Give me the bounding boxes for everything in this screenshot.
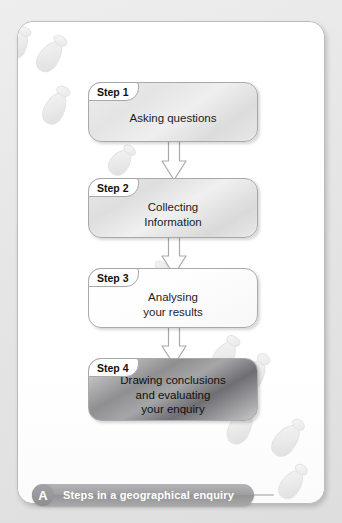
step-tab-label-1: Step 1 [88,82,139,101]
step-body-text-4: Drawing conclusions and evaluating your … [101,373,245,417]
step-tab-label-2: Step 2 [88,178,139,197]
step-tab-label-3: Step 3 [88,268,139,287]
footprint-icon [17,29,31,60]
footprint-icon [268,419,305,458]
footprint-icon [33,36,67,73]
flow-node-step-3[interactable]: Step 3 Analysing your results [88,268,258,328]
flow-node-step-1[interactable]: Step 1 Asking questions [88,82,258,142]
step-body-text-1: Asking questions [101,111,245,126]
footprint-icon [275,466,307,501]
caption-text: Steps in a geographical enquiry [63,489,234,501]
footprint-icon [105,145,135,177]
step-body-text-2: Collecting Information [101,200,245,229]
caption-badge: A [32,484,54,506]
footprint-icon [39,88,70,125]
figure-caption: A Steps in a geographical enquiry [32,484,254,506]
step-tab-label-4: Step 4 [88,358,139,377]
step-body-text-3: Analysing your results [101,290,245,319]
figure-page: Step 1 Asking questions Step 2 Collectin… [0,0,342,523]
flow-node-step-4[interactable]: Step 4 Drawing conclusions and evaluatin… [88,358,258,421]
flow-node-step-2[interactable]: Step 2 Collecting Information [88,178,258,238]
